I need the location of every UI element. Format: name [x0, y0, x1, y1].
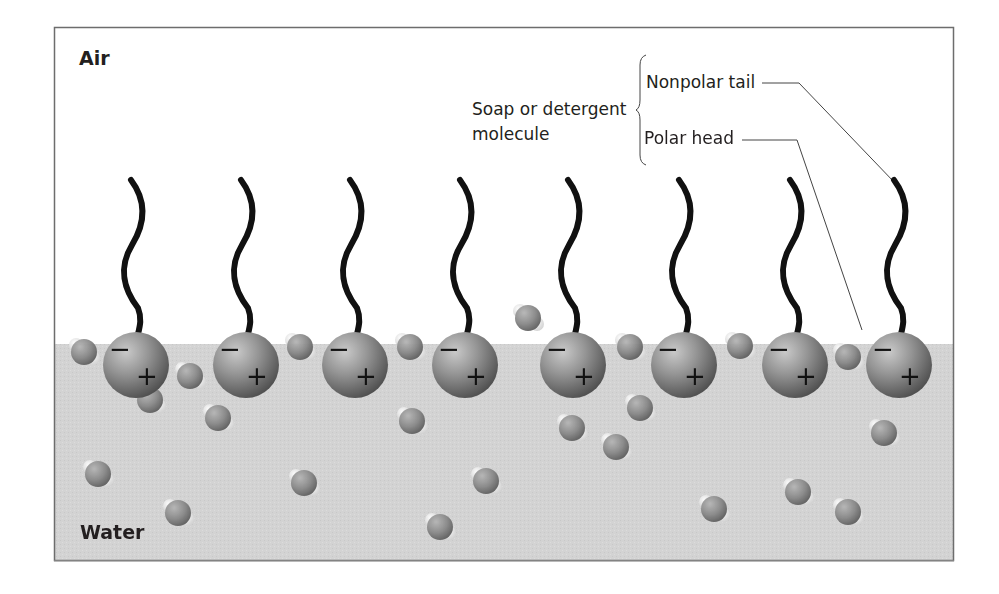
soap-molecule-label-line1: Soap or detergent	[472, 98, 626, 120]
positive-charge: +	[355, 361, 377, 391]
air-region	[54, 27, 954, 344]
positive-charge: +	[795, 361, 817, 391]
negative-charge: −	[109, 334, 131, 364]
positive-charge: +	[899, 361, 921, 391]
negative-charge: −	[546, 334, 568, 364]
negative-charge: −	[219, 334, 241, 364]
positive-charge: +	[465, 361, 487, 391]
positive-charge: +	[246, 361, 268, 391]
soap-monolayer-diagram: − + − + − + − + − + − + − + − + Air Wate…	[0, 0, 999, 594]
negative-charge: −	[657, 334, 679, 364]
negative-charge: −	[872, 334, 894, 364]
negative-charge: −	[438, 334, 460, 364]
air-label: Air	[79, 47, 110, 69]
negative-charge: −	[328, 334, 350, 364]
positive-charge: +	[136, 361, 158, 391]
soap-molecule-label-line2: molecule	[472, 123, 549, 145]
diagram-canvas: − + − + − + − + − + − + − + − +	[0, 0, 999, 594]
negative-charge: −	[768, 334, 790, 364]
water-label: Water	[80, 521, 144, 543]
nonpolar-tail-label: Nonpolar tail	[646, 71, 755, 93]
positive-charge: +	[573, 361, 595, 391]
polar-head-label: Polar head	[644, 127, 734, 149]
positive-charge: +	[684, 361, 706, 391]
